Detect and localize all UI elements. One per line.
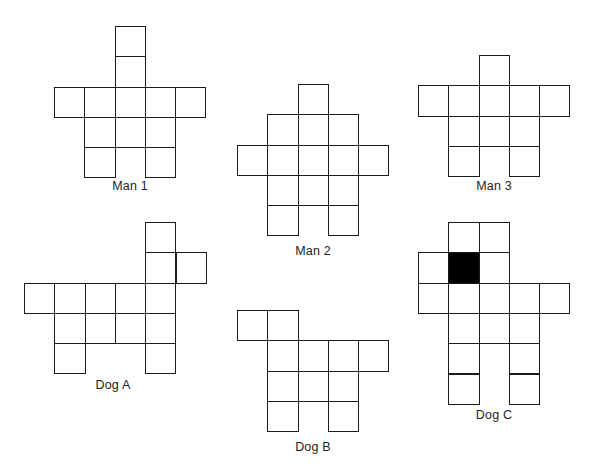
grid-cell	[85, 313, 116, 344]
grid-cell	[358, 145, 389, 176]
grid-cell	[267, 175, 298, 206]
grid-cell	[448, 222, 479, 253]
grid-cell	[418, 85, 449, 116]
grid-cell	[237, 145, 268, 176]
grid-cell	[298, 175, 329, 206]
grid-cell	[176, 252, 207, 283]
grid-cell	[115, 313, 146, 344]
grid-cell	[448, 313, 479, 344]
grid-cell	[115, 283, 146, 314]
grid-cell	[328, 205, 359, 236]
grid-cell	[54, 87, 85, 118]
figure-label: Man 2	[295, 244, 331, 258]
grid-cell	[418, 283, 449, 314]
grid-cell	[479, 55, 510, 86]
grid-cell	[328, 114, 359, 145]
grid-cell	[539, 85, 570, 116]
grid-cell	[479, 313, 510, 344]
grid-cell	[115, 56, 146, 87]
grid-cell	[479, 85, 510, 116]
grid-cell	[448, 283, 479, 314]
grid-cell	[509, 313, 540, 344]
grid-cell	[54, 313, 85, 344]
grid-cell	[509, 283, 540, 314]
grid-cell-filled	[448, 252, 479, 283]
grid-cell	[24, 283, 55, 314]
grid-cell	[358, 340, 389, 371]
grid-cell	[145, 252, 176, 283]
grid-cell	[115, 26, 146, 57]
figure-label: Man 3	[476, 179, 512, 193]
grid-cell	[509, 343, 540, 374]
grid-cell	[418, 252, 449, 283]
grid-cell	[145, 117, 176, 148]
grid-cell	[267, 401, 298, 432]
grid-cell	[448, 85, 479, 116]
grid-cell	[145, 147, 176, 178]
grid-cell	[267, 371, 298, 402]
grid-cell	[84, 117, 115, 148]
grid-cell	[267, 114, 298, 145]
grid-cell	[539, 283, 570, 314]
grid-cell	[115, 117, 146, 148]
grid-cell	[509, 146, 540, 177]
grid-cell	[237, 310, 268, 341]
grid-cell	[145, 313, 176, 344]
grid-cell	[145, 87, 176, 118]
grid-cell	[448, 116, 479, 147]
grid-cell	[328, 175, 359, 206]
grid-cell	[448, 343, 479, 374]
grid-cell	[298, 84, 329, 115]
grid-cell	[479, 283, 510, 314]
grid-cell	[84, 147, 115, 178]
grid-cell	[448, 146, 479, 177]
figure-label: Dog C	[476, 408, 512, 422]
grid-cell	[509, 85, 540, 116]
grid-cell	[328, 145, 359, 176]
grid-cell	[145, 222, 176, 253]
grid-cell	[328, 401, 359, 432]
grid-cell	[509, 374, 540, 405]
grid-cell	[298, 340, 329, 371]
grid-cell	[509, 116, 540, 147]
grid-cell	[267, 205, 298, 236]
grid-cell	[479, 222, 510, 253]
grid-cell	[479, 252, 510, 283]
grid-cell	[145, 283, 176, 314]
figure-label: Dog A	[95, 378, 130, 392]
figure-label: Dog B	[295, 440, 331, 454]
grid-cell	[115, 87, 146, 118]
grid-cell	[54, 283, 85, 314]
grid-cell	[145, 343, 176, 374]
grid-cell	[85, 283, 116, 314]
grid-cell	[267, 340, 298, 371]
grid-cell	[298, 371, 329, 402]
grid-cell	[328, 340, 359, 371]
grid-cell	[267, 310, 298, 341]
grid-cell	[84, 87, 115, 118]
grid-cell	[448, 374, 479, 405]
grid-cell	[328, 371, 359, 402]
grid-cell	[175, 87, 206, 118]
figure-label: Man 1	[112, 179, 148, 193]
grid-cell	[298, 145, 329, 176]
grid-cell	[298, 114, 329, 145]
grid-cell	[479, 116, 510, 147]
grid-cell	[54, 343, 85, 374]
grid-cell	[267, 145, 298, 176]
